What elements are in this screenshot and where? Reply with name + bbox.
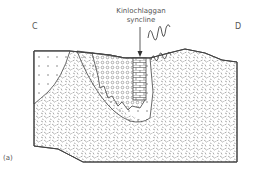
annotation-line-1: Kinlochlaggan <box>112 7 170 16</box>
annotation-line-2: syncline <box>112 16 170 25</box>
fold-squiggle-upper <box>148 25 170 40</box>
figure-label: (a) <box>3 155 13 162</box>
cross-section-diagram <box>0 0 266 177</box>
section-end-label-d: D <box>235 23 241 31</box>
syncline-annotation: Kinlochlaggan syncline <box>112 7 170 25</box>
brick-core <box>133 58 146 100</box>
section-end-label-c: C <box>32 23 38 31</box>
arrow-head-icon <box>138 51 143 57</box>
